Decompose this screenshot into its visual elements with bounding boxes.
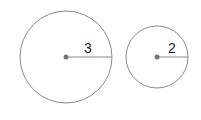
large-center-dot: [64, 55, 69, 60]
small-radius-label: 2: [168, 40, 176, 56]
large-circle-group: 3: [20, 11, 112, 103]
circles-diagram: 3 2: [0, 0, 201, 120]
small-circle-group: 2: [126, 26, 188, 88]
small-center-dot: [155, 55, 160, 60]
large-radius-label: 3: [84, 40, 92, 56]
